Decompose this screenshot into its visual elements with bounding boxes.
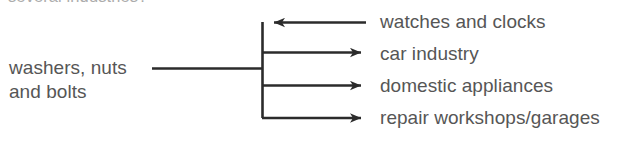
destination-label-watches-and-clocks: watches and clocks xyxy=(380,11,546,33)
branching-flow-diagram: several industries? washers, nuts and bo… xyxy=(0,0,629,141)
destination-label-repair-workshops-garages: repair workshops/garages xyxy=(380,107,600,129)
destination-label-domestic-appliances: domestic appliances xyxy=(380,75,553,97)
destination-label-car-industry: car industry xyxy=(380,43,479,65)
